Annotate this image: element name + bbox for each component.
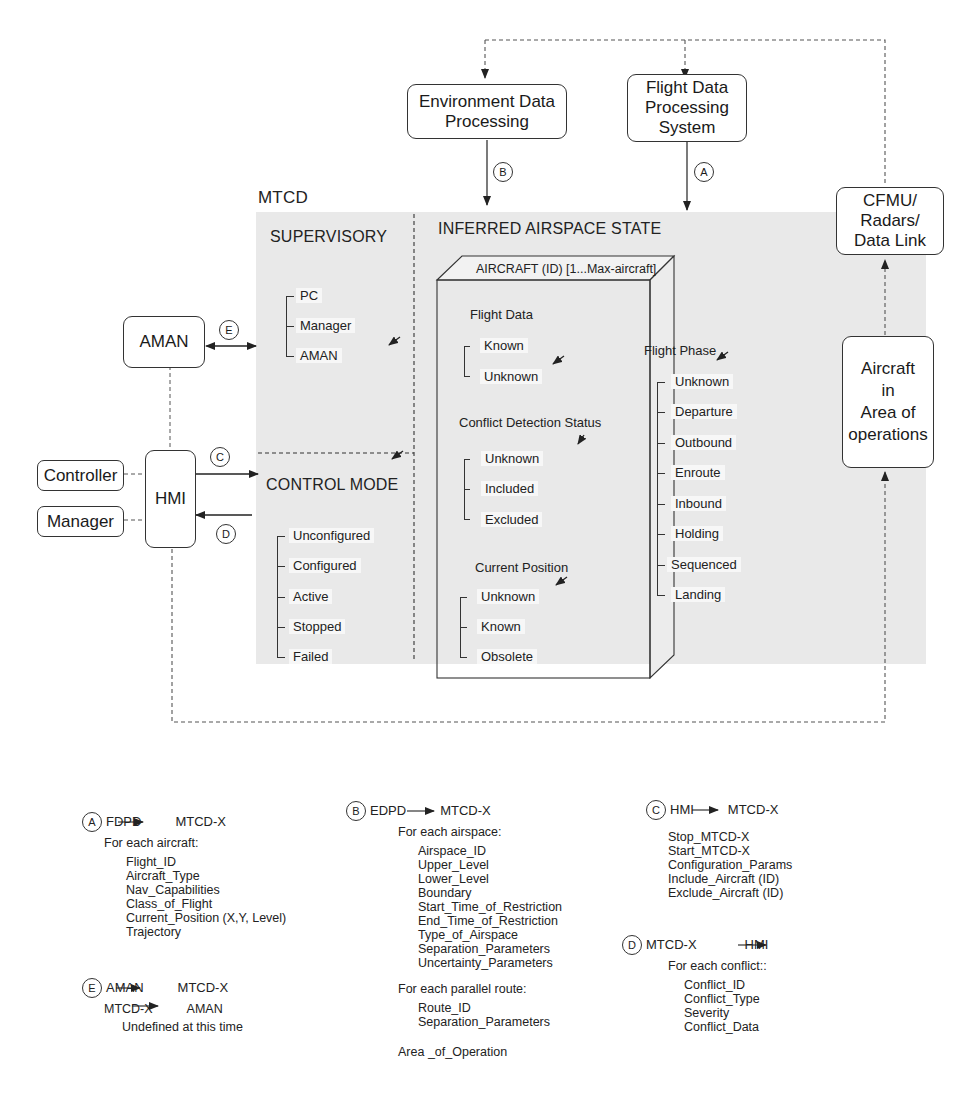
connector-e: E (219, 320, 239, 340)
conflict-detection-tick (464, 489, 470, 490)
legend-c-item: Configuration_Params (668, 858, 792, 872)
flight-phase-state-outbound: Outbound (671, 435, 736, 450)
legend-b: B EDPD MTCD-X For each airspace: Airspac… (346, 801, 562, 1059)
control-mode-state-active: Active (289, 589, 332, 604)
supervisory-state-manager: Manager (296, 318, 355, 333)
legend-b-item: Route_ID (418, 1001, 562, 1015)
control-mode-state-failed: Failed (289, 649, 332, 664)
flight-phase-state-sequenced: Sequenced (667, 557, 741, 572)
legend-a-to: MTCD-X (175, 815, 226, 829)
legend-d: D MTCD-X HMI For each conflict:: Conflic… (622, 935, 768, 1034)
mtcd-label: MTCD (258, 188, 308, 208)
flight-phase-tick (657, 382, 665, 383)
aircraft-area-of-operations-box: Aircraft in Area of operations (842, 336, 934, 468)
aircraft-box-title: AIRCRAFT (ID) [1...Max-aircraft] (476, 262, 656, 276)
legend-b-item: Upper_Level (418, 858, 562, 872)
legend-a: A FDPD MTCD-X For each aircraft: Flight_… (82, 812, 286, 939)
conflict-detection-state-included: Included (481, 481, 538, 496)
legend-a-circle: A (82, 812, 102, 832)
inferred-airspace-state-title: INFERRED AIRSPACE STATE (438, 220, 661, 238)
current-position-tick (460, 627, 467, 628)
legend-e-line1-from: AMAN (106, 981, 144, 995)
legend-c-item: Start_MTCD-X (668, 844, 792, 858)
legend-b-item: Uncertainty_Parameters (418, 956, 562, 970)
supervisory-tick (286, 296, 294, 297)
legend-e-note: Undefined at this time (82, 1020, 243, 1034)
legend-b-item: Lower_Level (418, 872, 562, 886)
legend-e: E AMAN MTCD-X MTCD-X AMAN Undefined at t… (82, 978, 243, 1034)
flight-phase-tick (657, 504, 665, 505)
flight-phase-tick (657, 534, 665, 535)
legend-a-items: Flight_ID Aircraft_Type Nav_Capabilities… (82, 855, 286, 939)
connector-a: A (694, 162, 714, 182)
legend-d-item: Conflict_ID (684, 978, 768, 992)
legend-b-items2: Route_ID Separation_Parameters (346, 1001, 562, 1029)
mtcd-background (256, 212, 926, 664)
control-mode-state-stopped: Stopped (289, 619, 345, 634)
legend-c-item: Include_Aircraft (ID) (668, 872, 792, 886)
flight-phase-tick (657, 412, 665, 413)
flight-phase-title: Flight Phase (644, 343, 716, 358)
control-mode-tick (277, 657, 285, 658)
legend-b-items1: Airspace_ID Upper_Level Lower_Level Boun… (346, 844, 562, 970)
legend-d-item: Severity (684, 1006, 768, 1020)
legend-e-line2-to: AMAN (187, 1002, 223, 1016)
current-position-state-obsolete: Obsolete (477, 649, 537, 664)
legend-c: C HMI MTCD-X Stop_MTCD-X Start_MTCD-X Co… (646, 800, 792, 900)
supervisory-tick (286, 326, 294, 327)
flight-phase-tick (657, 595, 665, 596)
legend-a-item: Flight_ID (126, 855, 286, 869)
flight-phase-bracket (657, 382, 658, 596)
legend-e-line2-from: MTCD-X (104, 1002, 153, 1016)
legend-a-item: Class_of_Flight (126, 897, 286, 911)
connector-b: B (493, 162, 513, 182)
legend-b-item: Separation_Parameters (418, 942, 562, 956)
control-mode-title: CONTROL MODE (266, 476, 398, 494)
flight-data-title: Flight Data (470, 307, 533, 322)
conflict-detection-tick (464, 459, 470, 460)
current-position-tick (460, 597, 467, 598)
flight-data-bracket (464, 346, 465, 377)
legend-a-item: Trajectory (126, 925, 286, 939)
legend-b-item: Airspace_ID (418, 844, 562, 858)
aman-box: AMAN (123, 316, 205, 368)
legend-b-footer: Area _of_Operation (346, 1045, 562, 1059)
flight-phase-state-holding: Holding (671, 526, 723, 541)
flight-phase-state-inbound: Inbound (671, 496, 726, 511)
control-mode-tick (277, 566, 285, 567)
legend-c-items: Stop_MTCD-X Start_MTCD-X Configuration_P… (646, 830, 792, 900)
legend-a-item: Nav_Capabilities (126, 883, 286, 897)
flight-phase-tick (657, 473, 665, 474)
connector-c: C (210, 447, 230, 467)
flight-phase-tick (657, 565, 665, 566)
control-mode-tick (277, 536, 285, 537)
flight-data-tick (464, 346, 470, 347)
legend-d-sub: For each conflict:: (622, 959, 768, 973)
legend-c-item: Exclude_Aircraft (ID) (668, 886, 792, 900)
legend-b-item: Type_of_Airspace (418, 928, 562, 942)
flight-data-state-unknown: Unknown (480, 369, 542, 384)
current-position-state-unknown: Unknown (477, 589, 539, 604)
hmi-box: HMI (145, 450, 196, 548)
legend-c-item: Stop_MTCD-X (668, 830, 792, 844)
legend-b-item: End_Time_of_Restriction (418, 914, 562, 928)
legend-e-line1-to: MTCD-X (178, 981, 229, 995)
legend-b-sub1: For each airspace: (346, 825, 562, 839)
manager-box: Manager (37, 506, 124, 537)
legend-a-item: Aircraft_Type (126, 869, 286, 883)
legend-a-item: Current_Position (X,Y, Level) (126, 911, 286, 925)
legend-c-circle: C (646, 800, 666, 820)
legend-b-item: Start_Time_of_Restriction (418, 900, 562, 914)
current-position-state-known: Known (477, 619, 525, 634)
conflict-detection-status-title: Conflict Detection Status (459, 415, 601, 430)
control-mode-state-configured: Configured (289, 558, 361, 573)
legend-a-sub: For each aircraft: (82, 836, 286, 850)
legend-b-item: Separation_Parameters (418, 1015, 562, 1029)
control-mode-state-unconfigured: Unconfigured (289, 528, 374, 543)
supervisory-state-pc: PC (296, 288, 322, 303)
conflict-detection-state-unknown: Unknown (481, 451, 543, 466)
supervisory-state-aman: AMAN (296, 348, 342, 363)
flight-phase-state-landing: Landing (671, 587, 725, 602)
legend-e-circle: E (82, 978, 102, 998)
current-position-title: Current Position (475, 560, 568, 575)
